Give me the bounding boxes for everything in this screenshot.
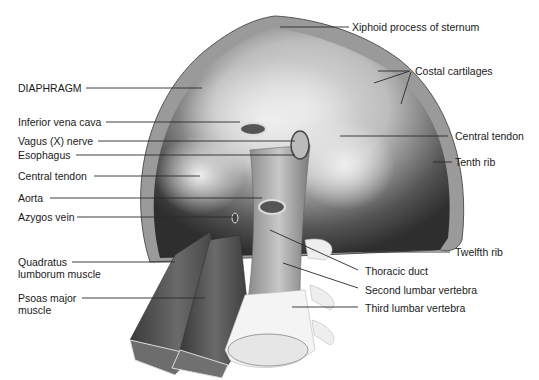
esophagus-opening — [291, 131, 309, 159]
label-central-tendon-right: Central tendon — [455, 130, 524, 142]
ivc-opening — [240, 123, 266, 135]
label-second-lumbar-vertebra: Second lumbar vertebra — [365, 284, 477, 296]
label-central-tendon-left: Central tendon — [18, 170, 87, 182]
label-esophagus: Esophagus — [18, 149, 71, 161]
label-diaphragm: DIAPHRAGM — [18, 82, 82, 94]
aorta-opening — [259, 200, 285, 214]
diaphragm-illustration: DIAPHRAGM Inferior vena cava Vagus (X) n… — [0, 0, 539, 380]
label-xiphoid-process: Xiphoid process of sternum — [352, 21, 479, 33]
label-azygos-vein: Azygos vein — [18, 211, 75, 223]
crura — [248, 145, 310, 300]
azygos-opening — [232, 213, 238, 223]
label-vagus-nerve: Vagus (X) nerve — [18, 135, 93, 147]
label-tenth-rib: Tenth rib — [455, 156, 495, 168]
anatomy-drawing — [0, 0, 539, 380]
label-twelfth-rib: Twelfth rib — [455, 246, 503, 258]
vertebra-section — [228, 334, 308, 366]
label-quadratus-lumborum: Quadratus lumborum muscle — [18, 256, 103, 280]
label-thoracic-duct: Thoracic duct — [365, 265, 428, 277]
label-inferior-vena-cava: Inferior vena cava — [18, 116, 101, 128]
label-aorta: Aorta — [18, 192, 43, 204]
label-costal-cartilages: Costal cartilages — [415, 65, 493, 77]
label-psoas-major: Psoas major muscle — [18, 292, 88, 316]
label-third-lumbar-vertebra: Third lumbar vertebra — [365, 302, 465, 314]
